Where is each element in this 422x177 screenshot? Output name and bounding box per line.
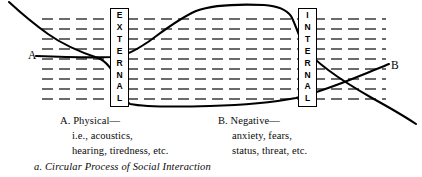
point-label-B: B	[391, 59, 399, 71]
annotation-right-line2: anxiety, fears,	[232, 130, 292, 141]
external-letter-4: E	[117, 47, 123, 57]
wave-curves	[9, 2, 416, 124]
internal-letter-6: N	[304, 71, 310, 81]
external-letter-2: X	[117, 23, 123, 33]
external-letter-6: N	[116, 71, 122, 81]
annotation-left-line3: hearing, tiredness, etc.	[72, 145, 169, 156]
figure-caption: a. Circular Process of Social Interactio…	[34, 161, 211, 172]
dashed-field	[42, 19, 386, 99]
external-letter-3: T	[117, 35, 122, 45]
internal-letter-8: L	[305, 94, 310, 104]
internal-letter-1: I	[306, 11, 308, 21]
annotation-right-line3: status, threat, etc.	[232, 145, 307, 156]
internal-letter-5: R	[304, 59, 310, 69]
point-label-A: A	[28, 49, 37, 61]
curve-descending-from-A	[9, 2, 389, 107]
internal-letter-7: A	[304, 82, 310, 92]
internal-label-box: I N T E R N A L	[298, 8, 317, 107]
annotation-right-line1: B. Negative—	[218, 115, 280, 126]
annotation-left-line2: i.e., acoustics,	[72, 130, 133, 141]
external-letter-7: A	[116, 82, 122, 92]
external-label-box: E X T E R N A L	[110, 8, 129, 107]
external-letter-8: L	[117, 94, 122, 104]
internal-letter-4: E	[305, 47, 311, 57]
circular-process-diagram: A B	[0, 0, 422, 177]
internal-letter-2: N	[304, 23, 310, 33]
annotation-left-line1: A. Physical—	[60, 115, 120, 126]
internal-letter-3: T	[305, 35, 310, 45]
external-letter-1: E	[117, 11, 123, 21]
external-letter-5: R	[116, 59, 122, 69]
